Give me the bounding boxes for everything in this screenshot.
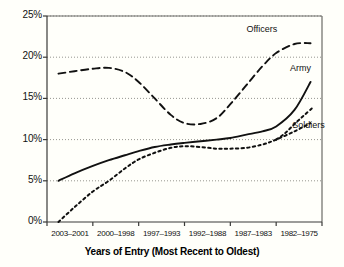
series-label-officers: Officers <box>246 24 277 34</box>
y-axis-tick-label: 15% <box>6 91 42 102</box>
x-axis-tick-label: 1992–1988 <box>181 229 233 238</box>
x-axis-title: Years of Entry (Most Recent to Oldest) <box>0 246 344 257</box>
y-axis-tick-label: 5% <box>6 174 42 185</box>
x-axis-tick-label: 1997–1993 <box>136 229 188 238</box>
y-axis-tick-label: 10% <box>6 133 42 144</box>
x-axis-ticks <box>47 222 322 226</box>
y-axis-tick-label: 20% <box>6 50 42 61</box>
x-axis-tick-label: 2003–2001 <box>44 229 96 238</box>
plot-background <box>47 16 322 222</box>
series-label-soldiers: Soldiers <box>292 120 325 130</box>
y-axis-tick-label: 0% <box>6 215 42 226</box>
y-axis-tick-label: 25% <box>6 9 42 20</box>
x-axis-tick-label: 1982–1975 <box>273 229 325 238</box>
x-axis-tick-label: 1987–1983 <box>227 229 279 238</box>
chart-figure: 0%5%10%15%20%25% 2003–20012000–19981997–… <box>0 0 344 267</box>
x-axis-tick-label: 2000–1998 <box>90 229 142 238</box>
chart-plot-area <box>0 0 344 267</box>
series-label-army: Army <box>290 63 311 73</box>
